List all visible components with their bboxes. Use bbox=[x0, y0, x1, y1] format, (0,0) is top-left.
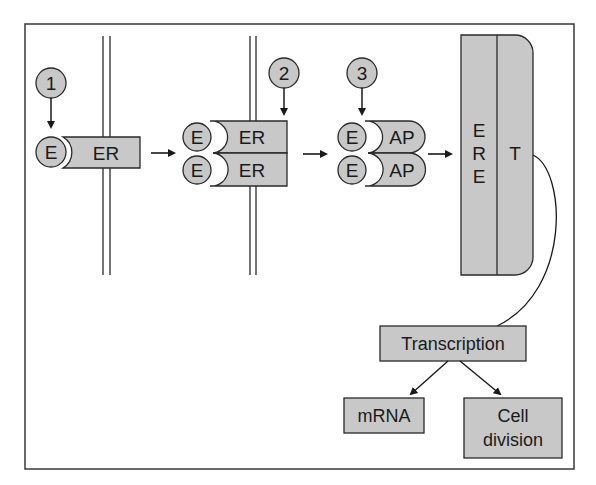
svg-text:E: E bbox=[473, 120, 486, 141]
step-1-marker: 1 bbox=[36, 68, 66, 98]
svg-text:E: E bbox=[45, 142, 58, 163]
svg-text:division: division bbox=[483, 430, 543, 450]
svg-text:ER: ER bbox=[239, 160, 265, 181]
svg-text:E: E bbox=[346, 160, 359, 181]
svg-text:2: 2 bbox=[279, 63, 290, 84]
svg-text:R: R bbox=[472, 143, 486, 164]
svg-text:1: 1 bbox=[46, 73, 57, 94]
svg-text:AP: AP bbox=[389, 127, 414, 148]
cell-division-box: Cell division bbox=[464, 398, 562, 458]
ligand-e-1: E bbox=[36, 137, 66, 167]
svg-text:3: 3 bbox=[357, 63, 368, 84]
svg-text:AP: AP bbox=[389, 160, 414, 181]
target-gene-label: T bbox=[509, 143, 521, 164]
transcription-box: Transcription bbox=[380, 326, 526, 361]
svg-text:mRNA: mRNA bbox=[358, 406, 411, 426]
svg-text:Transcription: Transcription bbox=[401, 334, 504, 354]
svg-text:E: E bbox=[191, 127, 204, 148]
step-3-marker: 3 bbox=[347, 58, 377, 88]
svg-text:ER: ER bbox=[93, 143, 119, 164]
ligand-e-2b: E bbox=[183, 156, 211, 184]
svg-text:E: E bbox=[191, 160, 204, 181]
svg-text:Cell: Cell bbox=[497, 406, 528, 426]
estrogen-signaling-diagram: 1 ER E 2 ER ER E E 3 AP bbox=[0, 0, 596, 485]
receptor-er-monomer: ER bbox=[63, 137, 140, 168]
svg-text:E: E bbox=[473, 166, 486, 187]
step-2-marker: 2 bbox=[269, 58, 299, 88]
ligand-e-3b: E bbox=[338, 156, 366, 184]
mrna-box: mRNA bbox=[344, 398, 424, 433]
ligand-e-3a: E bbox=[338, 123, 366, 151]
ligand-e-2a: E bbox=[183, 123, 211, 151]
ere-label: E R E bbox=[472, 120, 486, 187]
svg-text:ER: ER bbox=[239, 127, 265, 148]
svg-text:E: E bbox=[346, 127, 359, 148]
